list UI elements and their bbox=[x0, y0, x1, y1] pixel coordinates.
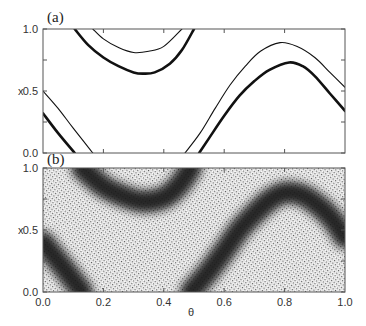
panel-b-ylabel: x bbox=[18, 224, 24, 236]
panel-a-curves bbox=[43, 29, 345, 153]
panel-a-label: (a) bbox=[47, 9, 64, 26]
panel-b-label: (b) bbox=[47, 151, 65, 168]
xtick-label: 0.8 bbox=[277, 296, 292, 308]
panel-a-ytick-0: 0.0 bbox=[23, 147, 38, 159]
panel-b-ytick-1: 1.0 bbox=[23, 162, 38, 174]
panel-a-ytick-05: 0.5 bbox=[23, 85, 38, 97]
xtick-label: 0.2 bbox=[96, 296, 111, 308]
xtick-label: 0.0 bbox=[35, 296, 50, 308]
panel-b-xlabel: θ bbox=[188, 306, 194, 318]
panel-b: (b) 1.0 0.5 0.0 x 0.00.20.40.60.81.0 θ bbox=[18, 151, 353, 318]
thin-curve bbox=[93, 29, 182, 53]
panel-a-ylabel: x bbox=[18, 85, 24, 97]
thick-curve bbox=[199, 62, 345, 153]
panel-b-density bbox=[43, 168, 345, 292]
thick-curve bbox=[43, 113, 75, 153]
panel-a-ytick-1: 1.0 bbox=[23, 23, 38, 35]
panel-b-ytick-05: 0.5 bbox=[23, 224, 38, 236]
panel-a: (a) 1.0 0.5 0.0 x bbox=[18, 9, 345, 159]
xtick-label: 0.6 bbox=[217, 296, 232, 308]
xtick-label: 1.0 bbox=[337, 296, 352, 308]
figure: (a) 1.0 0.5 0.0 x (b) 1.0 0.5 0.0 x 0.00… bbox=[0, 0, 366, 326]
xtick-label: 0.4 bbox=[156, 296, 171, 308]
